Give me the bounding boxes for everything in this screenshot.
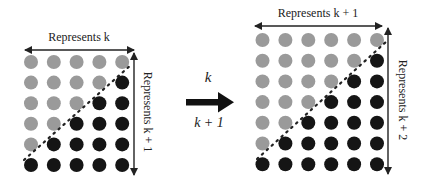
gray-dot (278, 74, 292, 88)
gray-dot (278, 54, 292, 68)
black-dot (24, 158, 38, 172)
black-dot (324, 116, 338, 130)
black-dot (347, 95, 361, 109)
gray-dot (70, 55, 84, 69)
black-dot (47, 137, 61, 151)
gray-dot (24, 55, 38, 69)
gray-dot (324, 33, 338, 47)
black-dot (347, 116, 361, 130)
left-panel: Represents k Represents k + 1 (24, 30, 155, 175)
black-dot (347, 74, 361, 88)
black-dot (115, 96, 129, 110)
right-diagonal-dotted-line (257, 41, 387, 159)
black-dot (347, 157, 361, 171)
black-dot (347, 137, 361, 151)
gray-dot (370, 33, 384, 47)
gray-dot (70, 76, 84, 90)
black-dot (370, 54, 384, 68)
black-dot (324, 137, 338, 151)
gray-dot (24, 96, 38, 110)
black-dot (370, 157, 384, 171)
black-dot (301, 157, 315, 171)
middle-top-label: k (205, 69, 212, 85)
black-dot (92, 158, 106, 172)
right-arrow-icon (186, 92, 234, 113)
gray-dot (92, 76, 106, 90)
black-dot (301, 116, 315, 130)
gray-dot (92, 55, 106, 69)
black-dot (70, 137, 84, 151)
black-dot (370, 74, 384, 88)
gray-dot (256, 54, 270, 68)
gray-dot (24, 76, 38, 90)
diagram-canvas: Represents k Represents k + 1 k k + 1 Re… (0, 0, 426, 183)
gray-dot (24, 137, 38, 151)
gray-dot (47, 55, 61, 69)
left-side-label: Represents k + 1 (141, 72, 155, 152)
gray-dot (301, 33, 315, 47)
black-dot (92, 117, 106, 131)
middle-transition: k k + 1 (186, 69, 234, 130)
black-dot (70, 158, 84, 172)
gray-dot (47, 76, 61, 90)
black-dot (324, 157, 338, 171)
gray-dot (301, 74, 315, 88)
black-dot (115, 158, 129, 172)
black-dot (115, 117, 129, 131)
gray-dot (256, 33, 270, 47)
gray-dot (256, 74, 270, 88)
black-dot (70, 117, 84, 131)
black-dot (47, 158, 61, 172)
left-dot-grid (24, 55, 129, 172)
gray-dot (301, 54, 315, 68)
right-side-label: Represents k + 2 (396, 60, 410, 140)
gray-dot (256, 95, 270, 109)
gray-dot (278, 95, 292, 109)
right-top-label: Represents k + 1 (278, 6, 358, 20)
gray-dot (24, 117, 38, 131)
black-dot (92, 137, 106, 151)
middle-bottom-label: k + 1 (194, 115, 224, 130)
black-dot (301, 137, 315, 151)
gray-dot (301, 95, 315, 109)
black-dot (370, 95, 384, 109)
gray-dot (278, 33, 292, 47)
black-dot (370, 137, 384, 151)
black-dot (278, 137, 292, 151)
gray-dot (347, 33, 361, 47)
gray-dot (70, 96, 84, 110)
gray-dot (47, 96, 61, 110)
black-dot (115, 137, 129, 151)
right-panel: Represents k + 1 Represents k + 2 (255, 6, 410, 174)
left-top-label: Represents k (48, 30, 110, 44)
black-dot (278, 157, 292, 171)
gray-dot (256, 116, 270, 130)
black-dot (370, 116, 384, 130)
gray-dot (324, 54, 338, 68)
